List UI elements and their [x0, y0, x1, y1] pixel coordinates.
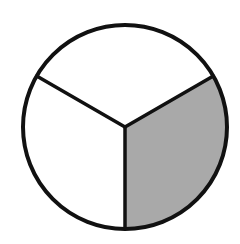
- fraction-circle-svg: [0, 0, 240, 244]
- fraction-circle-diagram: [0, 0, 240, 244]
